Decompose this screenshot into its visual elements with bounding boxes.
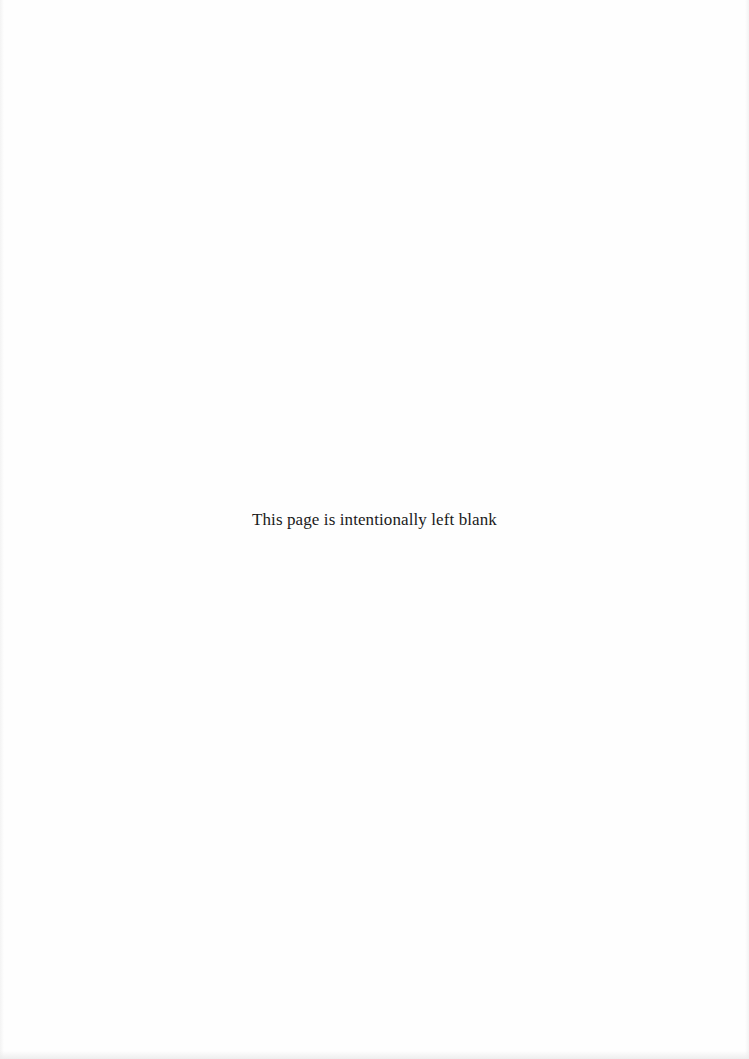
document-page: This page is intentionally left blank — [0, 0, 749, 1059]
page-edge-bottom — [0, 1051, 749, 1059]
blank-page-notice: This page is intentionally left blank — [0, 509, 749, 531]
